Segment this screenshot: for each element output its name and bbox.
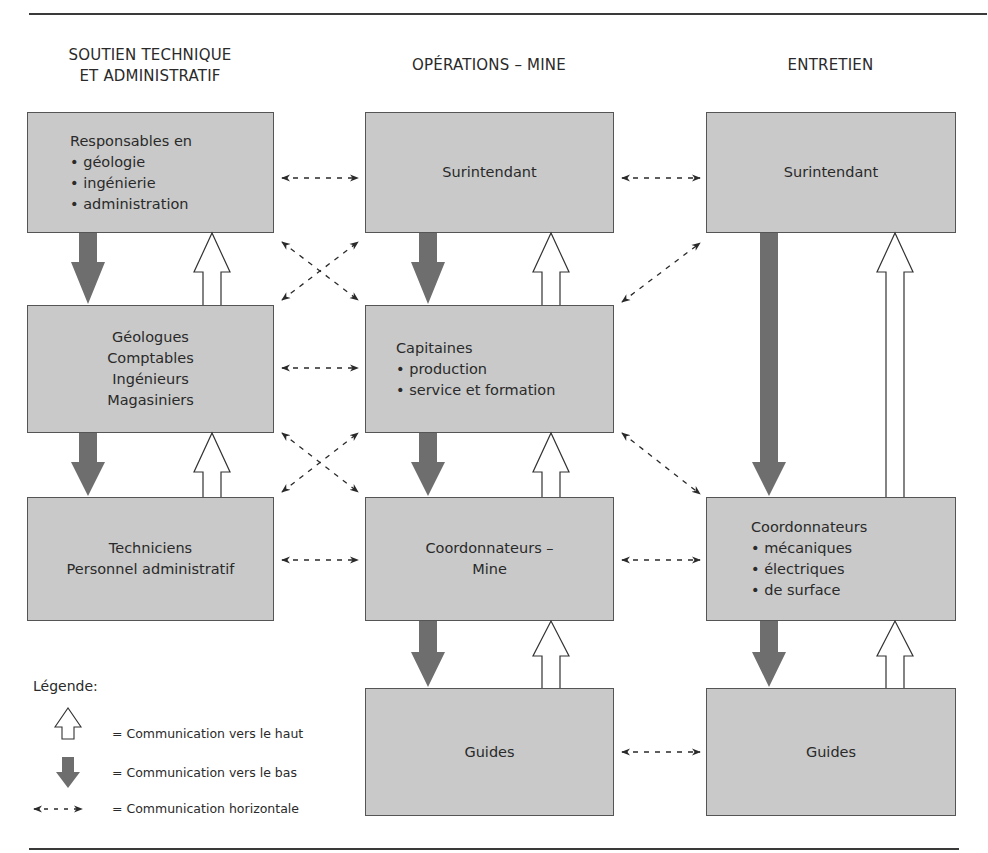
up-arrow-icon <box>533 621 569 688</box>
down-arrows <box>71 233 786 687</box>
down-arrow-filled-icon <box>56 757 80 788</box>
horizontal-dashed-arrows <box>282 178 700 752</box>
up-arrow-icon <box>533 433 569 497</box>
up-arrow-icon <box>194 433 230 497</box>
down-arrow-icon <box>752 233 786 496</box>
dashed-diagonal-arrow-icon <box>622 243 700 302</box>
legend-title: Légende: <box>33 678 98 694</box>
up-arrow-icon <box>533 233 569 305</box>
down-arrow-icon <box>71 433 105 496</box>
legend-item-horizontal: = Communication horizontale <box>112 801 299 816</box>
up-arrows <box>194 233 913 688</box>
down-arrow-icon <box>71 233 105 304</box>
up-arrow-icon <box>877 621 913 688</box>
legend-item-down: = Communication vers le bas <box>112 765 297 780</box>
down-arrow-icon <box>752 621 786 687</box>
down-arrow-icon <box>411 621 445 687</box>
legend-icons <box>34 708 82 809</box>
up-arrow-icon <box>194 233 230 305</box>
dashed-diagonal-arrow-icon <box>622 433 700 494</box>
up-arrow-outline-icon <box>55 708 81 739</box>
legend-item-up: = Communication vers le haut <box>112 726 303 741</box>
down-arrow-icon <box>411 233 445 304</box>
down-arrow-icon <box>411 433 445 496</box>
up-arrow-icon <box>877 233 913 497</box>
